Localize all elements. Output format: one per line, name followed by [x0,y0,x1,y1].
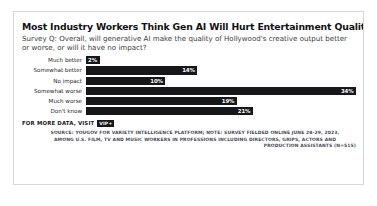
bar-row: Don't know 21% [22,107,356,115]
bar-category-label: Don't know [22,107,86,115]
bar-category-label: Somewhat worse [22,87,86,95]
source-line-1: SOURCE: YOUGOV FOR VARIETY INTELLIGENCE … [34,130,356,136]
bar-value-label: 2% [88,56,97,64]
bar-track: 19% [86,97,356,105]
bar-dont-know: 21% [86,107,253,115]
bar-much-worse: 19% [86,97,237,105]
source-note: SOURCE: YOUGOV FOR VARIETY INTELLIGENCE … [22,130,356,149]
bar-no-impact: 10% [86,77,165,85]
bar-value-label: 21% [238,107,251,115]
bar-somewhat-worse: 34% [86,87,356,95]
chart-subtitle: Survey Q: Overall, will generative AI ma… [22,35,347,52]
bar-value-label: 14% [182,66,195,74]
bar-row: No impact 10% [22,77,356,85]
bar-row: Much worse 19% [22,97,356,105]
bar-track: 34% [86,87,356,95]
bar-track: 2% [86,56,356,64]
bar-category-label: No impact [22,77,86,85]
bar-category-label: Somewhat better [22,66,86,74]
chart-card-inner: Most Industry Workers Think Gen AI Will … [22,21,356,180]
bar-category-label: Much better [22,56,86,64]
bar-value-label: 10% [150,77,163,85]
chart-card: Most Industry Workers Think Gen AI Will … [13,11,364,185]
bar-somewhat-better: 14% [86,66,197,74]
more-data-label: FOR MORE DATA, VISIT [22,120,94,127]
bar-track: 21% [86,107,356,115]
bar-chart: Much better 2% Somewhat better 14% No im… [22,56,356,115]
vip-plus-badge[interactable]: VIP+ [97,120,114,127]
bar-row: Somewhat better 14% [22,66,356,74]
bar-row: Much better 2% [22,56,356,64]
bar-value-label: 19% [222,97,235,105]
page-title: Most Industry Workers Think Gen AI Will … [22,21,356,32]
source-line-2: AMONG U.S. FILM, TV AND MUSIC WORKERS IN… [34,137,356,143]
bar-track: 14% [86,66,356,74]
bar-track: 10% [86,77,356,85]
bar-value-label: 34% [341,87,354,95]
more-data-line: FOR MORE DATA, VISIT VIP+ [22,120,356,127]
bar-much-better: 2% [86,56,100,64]
bar-category-label: Much worse [22,97,86,105]
source-line-3: PRODUCTION ASSISTANTS (N=515) [34,143,356,149]
bar-row: Somewhat worse 34% [22,87,356,95]
chart-footer: FOR MORE DATA, VISIT VIP+ SOURCE: YOUGOV… [22,120,356,149]
